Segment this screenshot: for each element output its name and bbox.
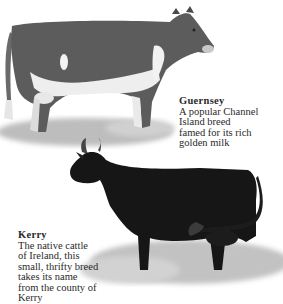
breed-name: Kerry	[18, 230, 123, 241]
guernsey-caption: Guernsey A popular Channel Island breed …	[179, 96, 283, 149]
kerry-caption: Kerry The native cattle of Ireland, this…	[18, 230, 123, 304]
breed-description: The native cattle of Ireland, this small…	[18, 241, 123, 304]
breed-description: A popular Channel Island breed famed for…	[179, 107, 283, 149]
breed-name: Guernsey	[179, 96, 283, 107]
